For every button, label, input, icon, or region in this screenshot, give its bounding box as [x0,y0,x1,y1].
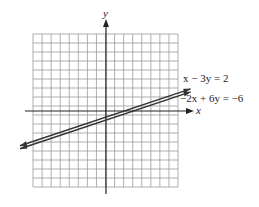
line1-equation-label: x − 3y = 2 [183,73,228,84]
line2-equation-label: −2x + 6y = −6 [180,93,243,104]
y-axis-arrow-icon [103,19,109,27]
line-1-arrow-left-icon [20,141,27,146]
x-axis-label: x [196,105,201,116]
y-axis-label: y [103,8,108,19]
x-axis-arrow-icon [186,108,194,114]
